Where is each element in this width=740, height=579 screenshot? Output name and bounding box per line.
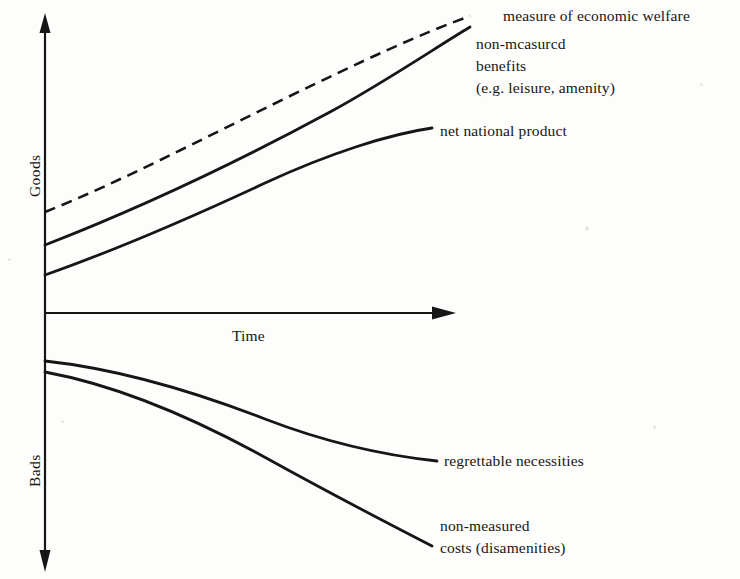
scan-speck [585,226,589,231]
scan-speck [61,420,64,423]
curve-net-national-product [45,128,432,275]
curve-measure-of-economic-welfare [45,16,470,212]
horizontal-axis-arrowhead [432,307,456,320]
label-net-national-product: net national product [440,120,567,141]
label-non-measured-costs-line1: non-measured [440,515,530,536]
economic-welfare-diagram: Goods Bads Time measure of economic welf… [0,0,740,579]
axis-label-time: Time [232,325,265,346]
curve-non-measured-benefits [45,27,470,245]
axis-label-goods: Goods [26,155,44,197]
scan-speck [8,258,11,261]
vertical-axis-down-arrowhead [40,550,51,572]
label-non-measured-benefits-line1: non-mcasurcd [476,33,566,54]
label-measure-of-economic-welfare: measure of economic welfare [503,5,690,26]
diagram-canvas [0,0,740,579]
vertical-axis-up-arrowhead [40,13,51,33]
scan-speck [653,425,656,429]
curve-non-measured-costs [45,372,432,546]
axis-label-bads: Bads [26,454,44,487]
label-non-measured-benefits-line2: benefits [476,55,526,76]
label-non-measured-benefits-line3: (e.g. leisure, amenity) [476,77,615,98]
scan-speck [700,83,703,86]
label-non-measured-costs-line2: costs (disamenities) [440,537,566,558]
label-regrettable-necessities: regrettable necessities [444,450,584,471]
